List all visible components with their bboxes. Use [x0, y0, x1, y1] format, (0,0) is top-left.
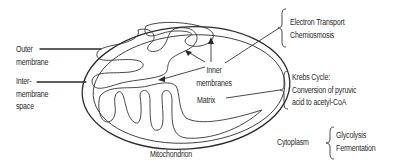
label-line: Krebs Cycle:	[292, 71, 356, 84]
label-line: Inter-	[16, 75, 48, 88]
cristae-folds	[92, 28, 197, 89]
label-line: Fermentation	[336, 142, 376, 155]
label-line: space	[16, 100, 48, 113]
intermembrane-space-label: Inter- membrane space	[16, 75, 48, 113]
label-line: Conversion of pyruvic	[292, 84, 356, 97]
cytoplasm-processes: Glycolysis Fermentation	[336, 129, 376, 154]
brace-icon	[326, 127, 334, 159]
brace-icon	[278, 9, 286, 47]
label-line: membrane	[16, 88, 48, 101]
krebs-cycle-pointer	[226, 90, 280, 98]
label-line: acid to acetyl-CoA	[292, 96, 356, 109]
cytoplasm-label: Cytoplasm	[277, 136, 309, 149]
outer-membrane-label: Outer membrane	[16, 43, 48, 68]
electron-transport-group: Electron Transport Chemiosmosis	[290, 16, 345, 41]
label-line: Electron Transport	[290, 16, 345, 29]
label-line: Glycolysis	[336, 129, 376, 142]
outer-membrane-shape	[78, 20, 294, 156]
label-line: membrane	[16, 56, 48, 69]
krebs-cycle-group: Krebs Cycle: Conversion of pyruvic acid …	[292, 71, 356, 109]
matrix-label: Matrix	[197, 94, 215, 107]
diagram-title: Mitochondrion	[150, 148, 192, 161]
inner-membrane-arrow-2	[188, 52, 205, 62]
inner-membranes-label: Inner membranes	[195, 64, 232, 89]
electron-transport-pointer	[225, 28, 279, 63]
label-line: Outer	[16, 43, 48, 56]
label-line: membranes	[195, 77, 232, 90]
inner-boundary-shape	[89, 28, 288, 149]
mitochondrion-diagram: Outer membrane Inter- membrane space Inn…	[0, 0, 393, 168]
label-line: Chemiosmosis	[290, 29, 345, 42]
label-line: Inner	[195, 64, 232, 77]
